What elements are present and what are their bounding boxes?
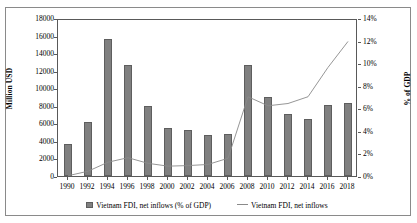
bar <box>64 144 72 176</box>
bar <box>144 106 152 176</box>
y-axis-right-tick-mark <box>358 132 361 133</box>
bar <box>124 65 132 176</box>
x-axis-tick-mark <box>167 177 168 180</box>
x-axis-tick-mark <box>107 177 108 180</box>
bar <box>224 134 232 176</box>
x-axis-tick-mark <box>267 177 268 180</box>
y-axis-left-tick-label: 0 <box>14 173 54 181</box>
bar <box>204 135 212 176</box>
x-axis-tick-mark <box>87 177 88 180</box>
x-axis-tick-mark <box>287 177 288 180</box>
bar <box>264 97 272 176</box>
x-axis-tick-mark <box>207 177 208 180</box>
bar <box>84 122 92 176</box>
y-axis-left-tick-mark <box>54 177 57 178</box>
y-axis-right-tick-label: 2% <box>363 150 403 158</box>
y-axis-right-title: % of GDP <box>403 53 412 125</box>
x-axis-tick-mark <box>327 177 328 180</box>
y-axis-right-tick-mark <box>358 154 361 155</box>
plot-area <box>57 19 357 177</box>
y-axis-right-tick-label: 6% <box>363 105 403 113</box>
bar <box>284 114 292 176</box>
x-axis-tick-mark <box>227 177 228 180</box>
bar <box>164 128 172 176</box>
legend-item-bar: Vietnam FDI, net inflows (% of GDP) <box>86 201 211 210</box>
x-axis-tick-mark <box>307 177 308 180</box>
bar <box>324 105 332 176</box>
x-axis-tick-mark <box>347 177 348 180</box>
y-axis-left-tick-label: 6000 <box>14 120 54 128</box>
y-axis-right-tick-mark <box>358 109 361 110</box>
bar <box>244 65 252 176</box>
y-axis-right-tick-label: 8% <box>363 83 403 91</box>
y-axis-right-tick-label: 12% <box>363 38 403 46</box>
y-axis-left-tick-label: 2000 <box>14 155 54 163</box>
y-axis-right-tick-mark <box>358 177 361 178</box>
line-swatch-icon <box>237 204 248 205</box>
legend-item-bar-label: Vietnam FDI, net inflows (% of GDP) <box>96 201 211 210</box>
y-axis-right-tick-label: 14% <box>363 15 403 23</box>
bar <box>104 39 112 176</box>
y-axis-left-tick-label: 16000 <box>14 33 54 41</box>
y-axis-left-tick-label: 4000 <box>14 138 54 146</box>
y-axis-left-tick-label: 14000 <box>14 50 54 58</box>
x-axis-tick-mark <box>247 177 248 180</box>
y-axis-left-tick-label: 12000 <box>14 68 54 76</box>
y-axis-right-tick-label: 4% <box>363 128 403 136</box>
bar <box>344 103 352 176</box>
y-axis-right-tick-label: 0% <box>363 173 403 181</box>
x-axis-tick-label: 2018 <box>332 182 362 191</box>
legend-item-line-label: Vietnam FDI, net inflows <box>251 201 328 210</box>
x-axis-tick-mark <box>147 177 148 180</box>
bar <box>184 130 192 176</box>
y-axis-left-tick-label: 8000 <box>14 103 54 111</box>
bar <box>304 119 312 176</box>
y-axis-right-tick-label: 10% <box>363 60 403 68</box>
chart-legend: Vietnam FDI, net inflows (% of GDP) Viet… <box>57 198 357 212</box>
x-axis-tick-mark <box>187 177 188 180</box>
y-axis-left-tick-label: 10000 <box>14 85 54 93</box>
chart-figure: Million USD % of GDP 0200040006000800010… <box>0 0 417 223</box>
x-axis-tick-mark <box>67 177 68 180</box>
y-axis-right-tick-mark <box>358 19 361 20</box>
legend-item-line: Vietnam FDI, net inflows <box>237 201 328 210</box>
bar-swatch-icon <box>86 202 93 208</box>
y-axis-right-tick-mark <box>358 87 361 88</box>
y-axis-left-title: Million USD <box>5 53 14 125</box>
x-axis-tick-mark <box>127 177 128 180</box>
y-axis-right-tick-mark <box>358 42 361 43</box>
y-axis-right-tick-mark <box>358 64 361 65</box>
y-axis-left-tick-label: 18000 <box>14 15 54 23</box>
